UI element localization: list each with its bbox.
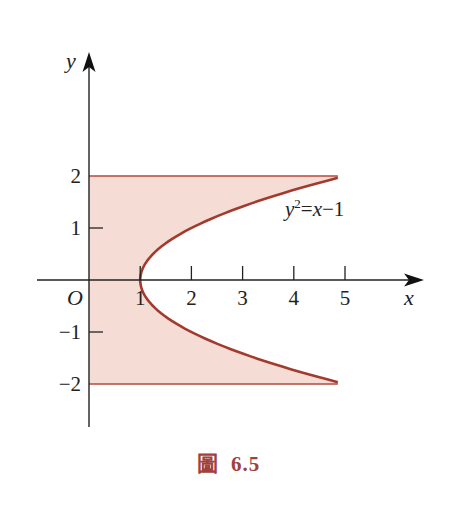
origin-label: O — [67, 285, 83, 310]
y-tick-label: 2 — [71, 164, 82, 188]
x-tick-label: 3 — [237, 286, 248, 310]
x-tick-label: 5 — [340, 286, 351, 310]
x-axis-label: x — [403, 285, 414, 310]
caption-number: 6.5 — [231, 452, 260, 477]
figure-caption: 圖6.5 — [0, 447, 457, 477]
y-tick-label: 1 — [71, 216, 82, 240]
x-tick-label: 2 — [186, 286, 197, 310]
y-tick-label: −1 — [59, 320, 81, 344]
x-tick-label: 1 — [135, 286, 146, 310]
equation-label: y2=x−1 — [283, 196, 344, 221]
y-axis-label: y — [64, 48, 76, 73]
y-tick-label: −2 — [59, 372, 81, 396]
caption-word: 圖 — [197, 447, 219, 477]
x-tick-label: 4 — [289, 286, 300, 310]
